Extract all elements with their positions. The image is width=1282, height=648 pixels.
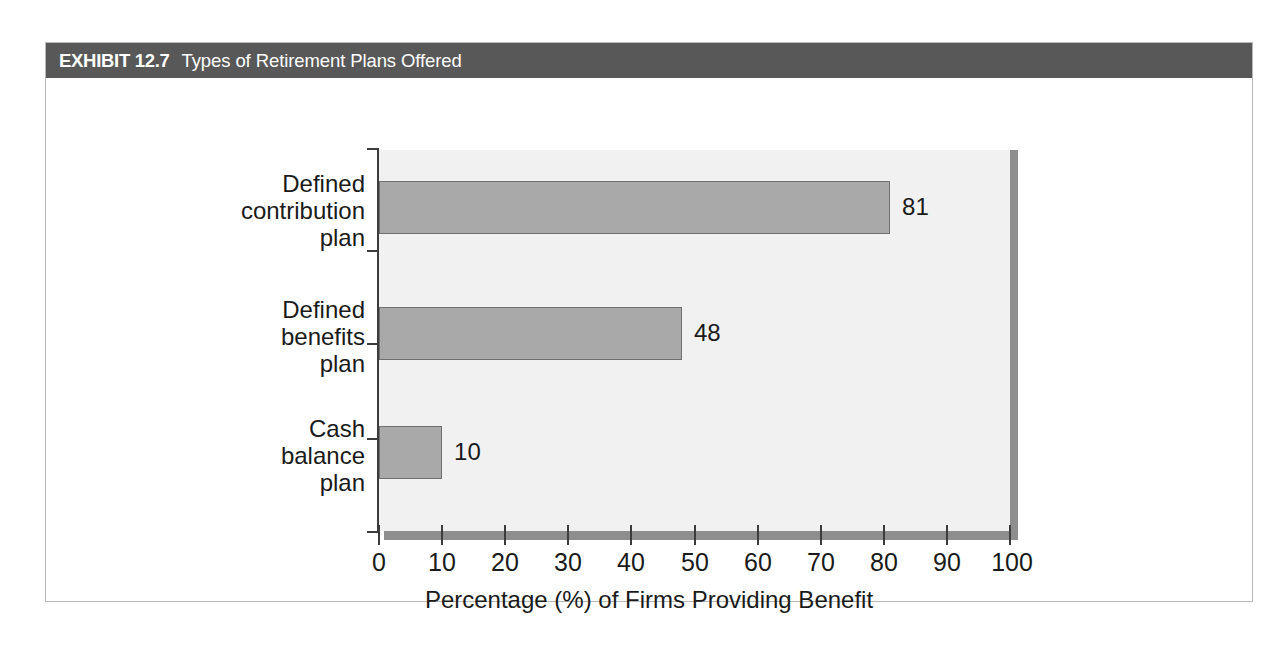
bar-cash-balance-plan [379, 426, 442, 479]
y-axis-tick [367, 148, 378, 150]
y-axis-tick [367, 531, 378, 533]
category-label-line: Defined [89, 170, 365, 197]
x-axis-tick-label: 30 [554, 548, 582, 577]
y-axis-tick [367, 438, 378, 440]
category-label-defined-contribution-plan: Defined contribution plan [89, 170, 379, 251]
x-axis-tick-label: 20 [491, 548, 519, 577]
exhibit-title-bar: EXHIBIT 12.7 Types of Retirement Plans O… [46, 43, 1252, 78]
category-label-line: contribution [89, 197, 365, 224]
x-axis-tick-label: 70 [807, 548, 835, 577]
category-label-line: plan [89, 469, 365, 496]
category-label-defined-benefits-plan: Defined benefits plan [89, 296, 379, 377]
exhibit-title: Types of Retirement Plans Offered [182, 50, 462, 72]
y-axis-tick [367, 250, 378, 252]
x-axis-tick-label: 0 [372, 548, 386, 577]
x-axis-tick [694, 525, 696, 545]
category-label-line: benefits [89, 323, 365, 350]
x-axis-tick-label: 40 [617, 548, 645, 577]
x-axis-title: Percentage (%) of Firms Providing Benefi… [46, 586, 1252, 614]
x-axis-tick [883, 525, 885, 545]
category-label-line: Defined [89, 296, 365, 323]
x-axis-tick [630, 525, 632, 545]
x-axis-tick [820, 525, 822, 545]
category-label-line: plan [89, 224, 365, 251]
plot-shadow-bottom [384, 531, 1018, 540]
x-axis-tick [757, 525, 759, 545]
plot-shadow-right [1010, 150, 1018, 539]
category-label-line: Cash [89, 415, 365, 442]
bar-value-label: 10 [454, 438, 481, 466]
bar-defined-contribution-plan [379, 181, 890, 234]
y-axis-tick [367, 343, 378, 345]
chart-canvas: Defined contribution plan Defined benefi… [46, 78, 1252, 601]
bar-defined-benefits-plan [379, 307, 682, 360]
exhibit-figure: EXHIBIT 12.7 Types of Retirement Plans O… [45, 42, 1253, 602]
exhibit-number: EXHIBIT 12.7 [59, 50, 170, 72]
x-axis-tick [1009, 525, 1011, 545]
category-label-line: balance [89, 442, 365, 469]
x-axis-tick [567, 525, 569, 545]
category-label-line: plan [89, 350, 365, 377]
x-axis-tick [946, 525, 948, 545]
x-axis-tick-label: 60 [744, 548, 772, 577]
x-axis-tick-label: 90 [933, 548, 961, 577]
category-label-cash-balance-plan: Cash balance plan [89, 415, 379, 496]
bar-value-label: 81 [902, 193, 929, 221]
x-axis-tick [378, 525, 380, 545]
x-axis-tick-label: 50 [681, 548, 709, 577]
x-axis-tick [504, 525, 506, 545]
x-axis-tick-label: 10 [428, 548, 456, 577]
x-axis-tick [441, 525, 443, 545]
x-axis-tick-label: 80 [870, 548, 898, 577]
bar-value-label: 48 [694, 319, 721, 347]
category-axis-labels: Defined contribution plan Defined benefi… [46, 78, 379, 538]
x-axis-tick-label: 100 [991, 548, 1033, 577]
